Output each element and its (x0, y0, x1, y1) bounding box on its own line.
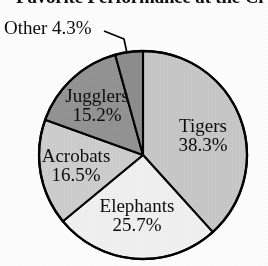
slice-label-acrobats-pct: 16.5% (24, 165, 128, 184)
slice-label-jugglers: Jugglers 15.2% (48, 86, 146, 125)
slice-label-tigers-pct: 38.3% (160, 135, 246, 154)
slice-label-elephants: Elephants 25.7% (82, 196, 192, 235)
other-callout-leader-line (104, 31, 127, 53)
slice-label-jugglers-name: Jugglers (65, 85, 128, 106)
slice-label-other: Other 4.3% (4, 17, 92, 39)
slice-label-acrobats: Acrobats 16.5% (24, 146, 128, 185)
slice-label-elephants-pct: 25.7% (82, 215, 192, 234)
slice-label-acrobats-name: Acrobats (42, 145, 111, 166)
slice-label-jugglers-pct: 15.2% (48, 105, 146, 124)
slice-label-elephants-name: Elephants (100, 195, 175, 216)
pie-chart-figure: Favorite Performance at the Ci Other 4.3… (0, 0, 268, 266)
slice-label-tigers: Tigers 38.3% (160, 116, 246, 155)
slice-label-tigers-name: Tigers (179, 115, 227, 136)
